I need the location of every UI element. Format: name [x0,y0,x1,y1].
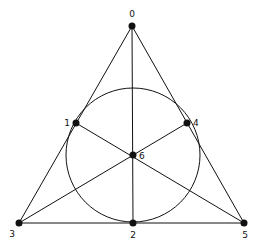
point-label-4: 4 [193,118,199,128]
line-5-1 [76,123,244,223]
line-3-4 [19,123,187,223]
point-label-5: 5 [242,230,248,240]
point-6 [130,152,137,159]
fano-plane-diagram: 0123456 [0,0,261,247]
point-5 [241,220,248,227]
point-4 [184,120,191,127]
point-0 [129,23,136,30]
point-label-1: 1 [64,118,70,128]
point-label-6: 6 [139,151,145,161]
line-0-2 [132,26,133,223]
point-1 [73,120,80,127]
point-label-3: 3 [9,229,15,239]
point-2 [130,220,137,227]
point-label-2: 2 [130,230,136,240]
point-3 [16,220,23,227]
point-label-0: 0 [129,9,135,19]
